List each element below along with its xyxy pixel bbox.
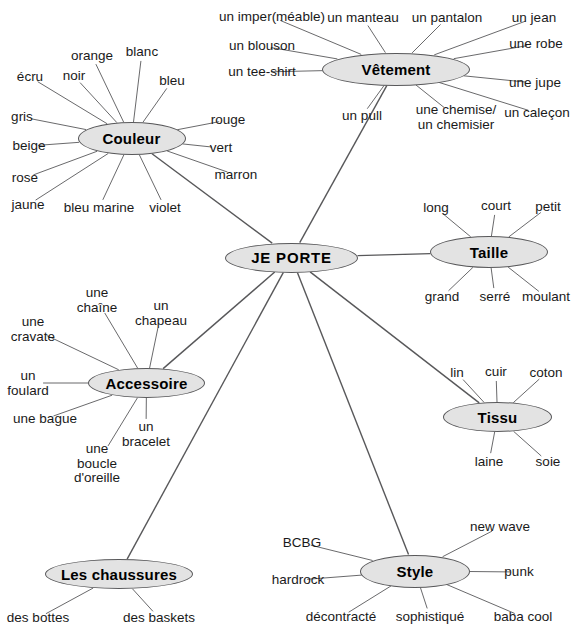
node-taille[interactable]: Taille xyxy=(430,236,548,268)
node-vetement[interactable]: Vêtement xyxy=(322,53,470,86)
leaf-label-vetement-5: une robe xyxy=(509,37,562,52)
leaf-label-tissu-0: lin xyxy=(450,366,464,381)
edge-couleur-leaf-2 xyxy=(143,88,167,122)
leaf-label-taille-1: court xyxy=(481,199,511,214)
leaf-label-taille-3: grand xyxy=(425,290,460,305)
node-couleur[interactable]: Couleur xyxy=(78,122,186,155)
leaf-label-accessoire-6: un bracelet xyxy=(122,420,170,449)
mind-map-diagram: orangeblancbleuécrunoirgrisbeigerosejaun… xyxy=(0,0,577,631)
leaf-label-style-3: punk xyxy=(504,565,533,580)
leaf-label-taille-4: serré xyxy=(480,290,511,305)
leaf-label-vetement-8: un pull xyxy=(342,109,382,124)
edge-center-style xyxy=(297,272,408,554)
edge-taille-leaf-4 xyxy=(491,268,494,288)
leaf-label-vetement-9: une chemise/ un chemisier xyxy=(416,103,496,132)
leaf-label-couleur-6: beige xyxy=(12,139,45,154)
leaf-label-tissu-2: coton xyxy=(529,366,562,381)
leaf-label-couleur-11: rouge xyxy=(211,113,246,128)
leaf-label-accessoire-2: une cravate xyxy=(11,315,55,344)
leaf-label-taille-0: long xyxy=(423,201,449,216)
leaf-label-couleur-5: gris xyxy=(11,110,33,125)
leaf-label-couleur-8: jaune xyxy=(11,198,44,213)
leaf-label-taille-5: moulant xyxy=(522,290,570,305)
leaf-label-couleur-4: noir xyxy=(63,69,86,84)
leaf-label-vetement-4: un blouson xyxy=(229,39,295,54)
leaf-label-tissu-4: soie xyxy=(536,455,561,470)
node-chaussures[interactable]: Les chaussures xyxy=(45,559,193,589)
leaf-label-vetement-3: un jean xyxy=(512,11,556,26)
leaf-label-style-0: BCBG xyxy=(283,536,321,551)
leaf-label-tissu-3: laine xyxy=(475,455,504,470)
leaf-label-couleur-13: marron xyxy=(215,168,258,183)
leaf-label-accessoire-0: une chaîne xyxy=(77,286,118,315)
edge-accessoire-leaf-1 xyxy=(150,328,158,368)
leaf-label-accessoire-4: une bague xyxy=(13,412,77,427)
edge-style-leaf-1 xyxy=(443,531,492,557)
edge-vetement-leaf-8 xyxy=(367,85,384,108)
leaf-label-couleur-0: orange xyxy=(71,49,113,64)
leaf-label-vetement-7: une jupe xyxy=(509,76,561,91)
edge-couleur-leaf-4 xyxy=(80,83,117,123)
leaf-label-couleur-1: blanc xyxy=(126,45,158,60)
leaf-label-accessoire-1: un chapeau xyxy=(135,299,187,328)
leaf-label-accessoire-5: une boucle d'oreille xyxy=(74,442,120,486)
edge-tissu-leaf-0 xyxy=(463,380,484,403)
leaf-label-chaussures-0: des bottes xyxy=(7,611,69,626)
node-style[interactable]: Style xyxy=(360,555,470,588)
leaf-label-style-1: new wave xyxy=(470,520,530,535)
edge-couleur-leaf-7 xyxy=(33,151,97,175)
edge-tissu-leaf-1 xyxy=(496,381,497,402)
leaf-label-couleur-9: bleu marine xyxy=(64,201,135,216)
leaf-label-taille-2: petit xyxy=(535,200,561,215)
edge-vetement-leaf-1 xyxy=(368,26,386,53)
edge-tissu-leaf-2 xyxy=(513,379,539,403)
edge-accessoire-leaf-2 xyxy=(47,335,119,369)
edge-taille-leaf-2 xyxy=(509,212,541,236)
node-accessoire[interactable]: Accessoire xyxy=(88,368,205,398)
node-je-porte[interactable]: JE PORTE xyxy=(225,243,358,273)
edge-couleur-leaf-9 xyxy=(103,155,124,200)
leaf-label-vetement-6: un tee-shirt xyxy=(228,65,296,80)
edge-couleur-leaf-10 xyxy=(139,155,161,200)
edge-taille-leaf-0 xyxy=(443,214,471,237)
edge-chaussures-leaf-1 xyxy=(132,589,153,612)
edge-couleur-leaf-0 xyxy=(96,64,124,122)
edge-vetement-leaf-2 xyxy=(412,24,441,53)
edge-couleur-leaf-3 xyxy=(38,82,107,124)
edge-couleur-leaf-8 xyxy=(36,153,109,200)
leaf-label-couleur-12: vert xyxy=(210,141,233,156)
node-tissu[interactable]: Tissu xyxy=(443,402,552,432)
edge-couleur-leaf-5 xyxy=(31,119,86,130)
leaf-label-couleur-2: bleu xyxy=(159,74,185,89)
leaf-label-vetement-2: un pantalon xyxy=(412,11,483,26)
leaf-label-style-5: sophistiqué xyxy=(396,610,464,625)
leaf-label-vetement-0: un imper(méable) xyxy=(219,10,325,25)
leaf-label-couleur-3: écru xyxy=(17,70,43,85)
edge-accessoire-leaf-0 xyxy=(105,313,138,368)
leaf-label-couleur-10: violet xyxy=(149,201,181,216)
leaf-label-style-4: décontracté xyxy=(306,610,377,625)
leaf-label-style-6: baba cool xyxy=(494,610,553,625)
edge-taille-leaf-1 xyxy=(491,215,494,236)
leaf-label-style-2: hardrock xyxy=(272,573,325,588)
leaf-label-accessoire-3: un foulard xyxy=(7,369,48,398)
leaf-label-chaussures-1: des baskets xyxy=(123,611,195,626)
edge-tissu-leaf-4 xyxy=(514,431,542,456)
leaf-label-vetement-1: un manteau xyxy=(327,11,398,26)
edge-taille-leaf-3 xyxy=(449,267,473,290)
edge-couleur-leaf-12 xyxy=(183,144,213,147)
edge-center-taille xyxy=(357,254,430,256)
leaf-label-vetement-10: un caleçon xyxy=(504,106,569,121)
leaf-label-tissu-1: cuir xyxy=(485,365,507,380)
edge-couleur-leaf-1 xyxy=(134,61,141,122)
leaf-label-couleur-7: rose xyxy=(12,171,38,186)
edge-style-leaf-5 xyxy=(420,587,427,608)
edge-tissu-leaf-3 xyxy=(491,432,495,453)
